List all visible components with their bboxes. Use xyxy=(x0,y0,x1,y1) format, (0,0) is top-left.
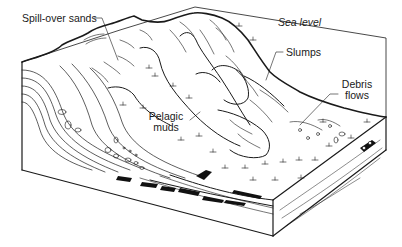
right-face xyxy=(273,117,386,236)
label-spill-over-sands: Spill-over sands xyxy=(22,13,97,24)
left-face xyxy=(22,62,273,236)
clast-lenses xyxy=(58,110,144,170)
block-diagram xyxy=(0,0,402,247)
label-pelagic-muds-line2: muds xyxy=(148,122,184,133)
slump-texture xyxy=(170,20,288,148)
debris-flow-clasts xyxy=(290,119,345,143)
slope-crest-outline xyxy=(22,13,386,117)
label-debris-flows-line2: flows xyxy=(340,90,374,101)
spill-over-sands-texture xyxy=(84,30,152,82)
label-slumps: Slumps xyxy=(286,47,321,58)
label-sea-level: Sea level xyxy=(278,17,321,28)
